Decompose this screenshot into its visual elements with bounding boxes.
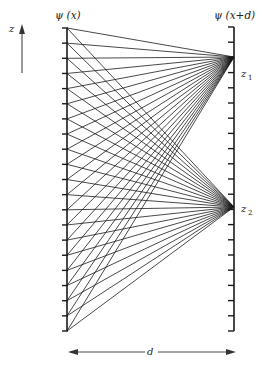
focus-2-label: z <box>240 203 247 214</box>
ray <box>67 207 234 301</box>
z-axis-label: z <box>8 23 15 34</box>
ray <box>67 57 234 225</box>
ray <box>67 57 234 195</box>
focus-1-subscript: 1 <box>248 74 252 82</box>
ray <box>67 149 234 207</box>
ray <box>67 57 234 286</box>
ray <box>67 104 234 207</box>
ray-lines <box>67 28 234 331</box>
focus-2-subscript: 2 <box>248 209 252 217</box>
ray <box>67 57 234 58</box>
diffraction-diagram: z ψ (x) ψ (x+d) z 1 z 2 d <box>0 0 262 368</box>
left-plane-ticks <box>62 28 68 331</box>
ray <box>67 57 234 180</box>
ray <box>67 57 234 119</box>
focus-1-label: z <box>240 68 247 79</box>
z-axis-arrow-icon <box>19 24 25 73</box>
right-plane-ticks <box>228 27 234 331</box>
ray <box>67 43 234 207</box>
distance-label: d <box>147 346 153 357</box>
ray <box>67 28 234 57</box>
right-plane-label: ψ (x+d) <box>214 9 255 21</box>
ray <box>67 207 234 255</box>
ray <box>67 180 234 208</box>
left-plane-label: ψ (x) <box>55 9 81 21</box>
ray <box>67 207 234 286</box>
